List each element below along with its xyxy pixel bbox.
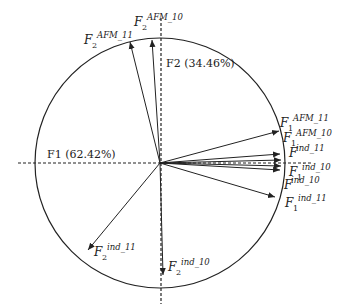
vector-label-f2-afm-11: F 2 AFM_11 [83,30,133,50]
svg-text:AFM_10: AFM_10 [146,12,183,23]
svg-text:2: 2 [142,23,147,32]
vector-label-f-ind-11: F ind_11 [288,143,325,160]
svg-text:AFM_11: AFM_11 [292,113,329,124]
svg-text:AFM_11: AFM_11 [96,30,133,41]
f1-axis-label: F1 (62.42%) [47,148,116,161]
vector-label-f2-ind-10: F 2 ind_10 [167,257,210,277]
vector-f2-afm-11 [130,42,160,163]
vector-label-f2-ind-11: F 2 ind_11 [93,242,136,262]
svg-text:AFM_10: AFM_10 [295,128,332,139]
correlation-circle-diagram: F1 (62.42%) F2 (34.46%) F 2 AFM_11 F 2 A… [0,0,338,304]
svg-text:ind_11: ind_11 [107,242,136,253]
svg-text:ind_10: ind_10 [181,257,210,268]
svg-text:2: 2 [92,41,97,50]
svg-text:2: 2 [102,253,107,262]
svg-text:1: 1 [293,204,298,213]
svg-text:2: 2 [176,268,181,277]
svg-text:ind_10: ind_10 [302,162,331,173]
vector-label-f2-afm-10: F 2 AFM_10 [133,12,183,32]
svg-text:ind_10: ind_10 [291,175,320,186]
vector-label-f1-ind-11: F 1 ind_11 [284,193,327,213]
svg-text:ind_11: ind_11 [298,193,327,204]
vector-label-f-ind-10: F ind_10 [283,175,320,192]
f2-axis-label: F2 (34.46%) [166,57,235,70]
vector-f1-ind-11 [160,163,275,197]
vector-f2-afm-10 [152,40,160,163]
vectors [88,40,281,275]
vector-f2-ind-11 [88,163,160,250]
svg-text:ind_11: ind_11 [296,143,325,154]
